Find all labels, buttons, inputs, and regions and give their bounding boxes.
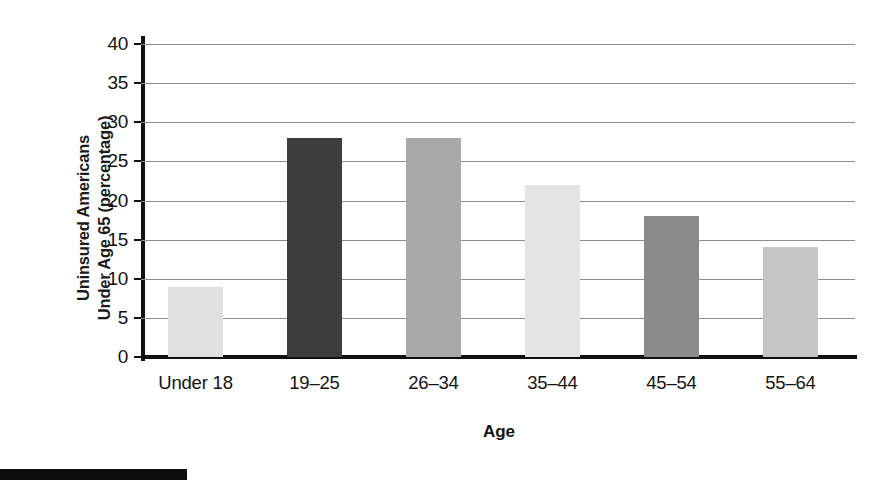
bar: [168, 287, 223, 357]
bar-slot: [763, 44, 818, 357]
y-tick-label: 20: [107, 190, 128, 212]
bar-slot: [525, 44, 580, 357]
plot-area: 0510152025303540: [141, 44, 855, 357]
bar: [525, 185, 580, 357]
y-tick-mark: [134, 356, 141, 358]
bar: [406, 138, 461, 357]
x-category-label: 35–44: [493, 372, 613, 394]
bar: [644, 216, 699, 357]
y-axis-title-line-1: Uninsured Americans: [73, 135, 93, 301]
bar: [763, 247, 818, 357]
bar-series: [141, 44, 855, 357]
y-tick-mark: [134, 317, 141, 319]
y-tick-label: 10: [107, 268, 128, 290]
y-tick-label: 25: [107, 150, 128, 172]
x-axis-title: Age: [141, 422, 857, 442]
y-tick-label: 5: [118, 307, 128, 329]
bar: [287, 138, 342, 357]
bar-slot: [406, 44, 461, 357]
y-axis-title: Uninsured Americans Under Age 65 (percen…: [71, 53, 115, 383]
x-category-label: Under 18: [136, 372, 256, 394]
bar-slot: [644, 44, 699, 357]
y-tick-mark: [134, 239, 141, 241]
y-tick-label: 15: [107, 229, 128, 251]
y-tick-mark: [134, 160, 141, 162]
x-category-label: 45–54: [612, 372, 732, 394]
y-tick-label: 35: [107, 72, 128, 94]
y-tick-label: 40: [107, 33, 128, 55]
y-tick-mark: [134, 82, 141, 84]
y-tick-mark: [134, 43, 141, 45]
x-category-label: 26–34: [374, 372, 494, 394]
x-category-label: 19–25: [255, 372, 375, 394]
y-tick-mark: [134, 121, 141, 123]
bar-slot: [287, 44, 342, 357]
y-tick-mark: [134, 278, 141, 280]
bar-chart-figure: Uninsured Americans Under Age 65 (percen…: [0, 0, 895, 481]
x-category-label: 55–64: [731, 372, 851, 394]
y-tick-label: 30: [107, 111, 128, 133]
footer-rule: [0, 469, 187, 480]
y-tick-label: 0: [118, 346, 128, 368]
y-tick-mark: [134, 200, 141, 202]
bar-slot: [168, 44, 223, 357]
